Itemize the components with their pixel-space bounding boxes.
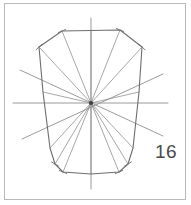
- radial-spoke-4: [91, 103, 133, 148]
- radial-spoke-10: [50, 103, 91, 148]
- radial-spoke-1: [91, 30, 120, 103]
- radial-spoke-3: [91, 92, 139, 103]
- radial-spoke-5: [91, 103, 128, 164]
- radial-spoke-9: [55, 103, 91, 164]
- center-hub-marker: [89, 101, 93, 105]
- radial-spoke-11: [43, 92, 91, 103]
- radial-polygon-diagram: [0, 0, 191, 205]
- figure-number-label: 16: [155, 142, 177, 161]
- radial-spoke-0: [62, 31, 91, 103]
- figure-container: 16: [0, 0, 191, 205]
- radial-spoke-12: [39, 47, 91, 103]
- radial-spoke-2: [91, 47, 142, 103]
- center-hub-group: [89, 101, 93, 105]
